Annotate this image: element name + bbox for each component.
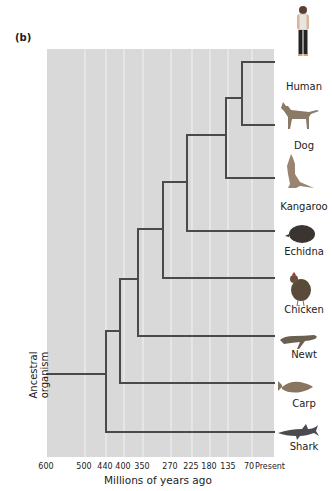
shark-icon [278, 424, 319, 440]
human-icon [297, 6, 309, 56]
taxon-label-human: Human [274, 81, 332, 92]
tick-600: 600 [38, 462, 53, 471]
taxon-label-chicken: Chicken [274, 304, 332, 315]
taxon-label-echidna: Echidna [274, 246, 332, 257]
chicken-icon [290, 272, 311, 306]
tick-270: 270 [162, 462, 177, 471]
root-label: Ancestral organism [28, 340, 50, 410]
taxon-label-carp: Carp [274, 398, 332, 409]
tick-135: 135 [220, 462, 235, 471]
tick-400: 400 [115, 462, 130, 471]
phylogenetic-tree-figure: (b) Ancestral organism Human Dog Kangaro… [0, 0, 332, 491]
panel-label: (b) [15, 32, 31, 43]
carp-icon [278, 381, 313, 393]
tick-180: 180 [201, 462, 216, 471]
tick-70: 70 [244, 462, 254, 471]
taxon-label-kangaroo: Kangaroo [274, 201, 332, 212]
tick-present: Present [255, 462, 285, 471]
tick-440: 440 [97, 462, 112, 471]
tick-225: 225 [183, 462, 198, 471]
echidna-icon [285, 225, 315, 243]
taxon-label-dog: Dog [274, 140, 332, 151]
chart-background [47, 49, 274, 457]
taxon-label-newt: Newt [274, 349, 332, 360]
kangaroo-icon [287, 154, 314, 188]
tick-500: 500 [76, 462, 91, 471]
newt-icon [280, 335, 317, 349]
x-axis-title: Millions of years ago [104, 474, 212, 486]
taxon-label-shark: Shark [274, 441, 332, 452]
tick-350: 350 [134, 462, 149, 471]
dog-icon [281, 102, 319, 129]
